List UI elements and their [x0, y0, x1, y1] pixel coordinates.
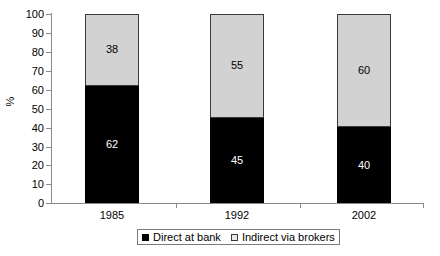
y-axis-label: 80 [14, 47, 44, 58]
bar-value-label: 62 [106, 139, 118, 150]
x-axis-label-1992: 1992 [192, 209, 282, 221]
legend-item-indirect[interactable]: Indirect via brokers [231, 232, 335, 243]
stacked-bar-chart: % 100 90 80 70 60 50 40 30 20 10 0 38 62… [0, 0, 440, 256]
y-axis-tick [46, 52, 51, 53]
x-axis-label-1985: 1985 [67, 209, 157, 221]
y-axis-tick [46, 165, 51, 166]
y-axis-label: 60 [14, 85, 44, 96]
legend-item-direct[interactable]: Direct at bank [142, 232, 221, 243]
filled-square-icon [142, 234, 149, 241]
legend-label-indirect: Indirect via brokers [242, 232, 335, 243]
bar-segment-indirect: 60 [337, 14, 391, 127]
legend-label-direct: Direct at bank [153, 232, 221, 243]
x-axis-tick [423, 203, 424, 208]
y-axis-label: 90 [14, 28, 44, 39]
y-axis-tick [46, 90, 51, 91]
bar-value-label: 40 [358, 160, 370, 171]
bar-value-label: 45 [231, 155, 243, 166]
x-axis-tick [300, 203, 301, 208]
bar-segment-indirect: 55 [210, 14, 264, 118]
bar-value-label: 55 [231, 60, 243, 71]
y-axis-label: 30 [14, 142, 44, 153]
bar-segment-direct: 62 [85, 86, 139, 203]
y-axis-tick [46, 203, 51, 204]
bar-value-label: 38 [106, 44, 118, 55]
y-axis-tick [46, 147, 51, 148]
y-axis-label: 20 [14, 160, 44, 171]
x-axis-line [51, 203, 424, 204]
bar-segment-indirect: 38 [85, 14, 139, 86]
y-axis-label: 10 [14, 179, 44, 190]
y-axis-tick [46, 128, 51, 129]
y-axis-tick [46, 71, 51, 72]
y-axis-tick [46, 33, 51, 34]
y-axis-tick [46, 14, 51, 15]
bar-segment-direct: 45 [210, 118, 264, 203]
bar-value-label: 60 [358, 65, 370, 76]
y-axis-label: 0 [14, 198, 44, 209]
y-axis-tick [46, 109, 51, 110]
plot-area: 38 62 55 45 60 40 [52, 14, 424, 203]
y-axis-tick [46, 184, 51, 185]
hollow-square-icon [231, 234, 238, 241]
y-axis-label: 50 [14, 104, 44, 115]
x-axis-label-2002: 2002 [319, 209, 409, 221]
y-axis-label: 40 [14, 123, 44, 134]
chart-legend: Direct at bank Indirect via brokers [137, 229, 340, 245]
bar-segment-direct: 40 [337, 127, 391, 203]
y-axis-label: 100 [14, 9, 44, 20]
y-axis-label: 70 [14, 66, 44, 77]
x-axis-tick [176, 203, 177, 208]
